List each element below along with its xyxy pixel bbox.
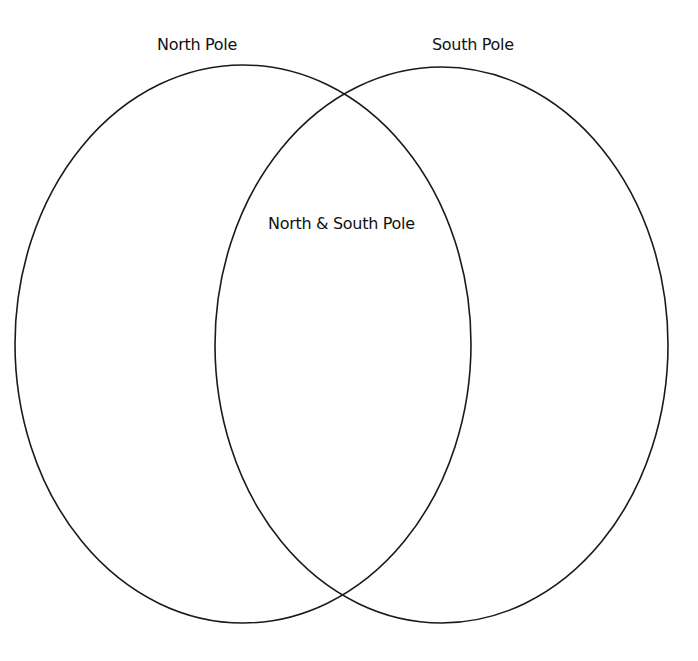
north-pole-ellipse — [15, 65, 471, 623]
intersection-label: North & South Pole — [268, 214, 415, 233]
venn-diagram — [0, 0, 698, 661]
north-pole-label: North Pole — [157, 35, 237, 54]
south-pole-ellipse — [215, 67, 668, 623]
south-pole-label: South Pole — [432, 35, 514, 54]
